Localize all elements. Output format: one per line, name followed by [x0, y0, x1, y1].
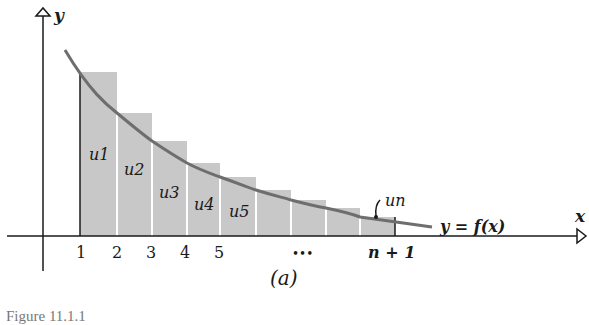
- figure-caption: Figure 11.1.1: [6, 308, 86, 325]
- x-axis-arrow-icon: [577, 229, 586, 243]
- y-axis-label: y: [53, 5, 65, 25]
- un-dot: [374, 215, 378, 219]
- tick-2: 2: [112, 243, 122, 262]
- y-axis-arrow-icon: [36, 8, 50, 16]
- tick-1: 1: [76, 243, 86, 262]
- panel-label: (a): [270, 266, 298, 290]
- bar-6: [256, 190, 291, 236]
- bar-label-u1: u1: [89, 145, 109, 164]
- x-axis-label: x: [574, 206, 586, 226]
- bar-label-u4: u4: [194, 195, 214, 214]
- tick-4: 4: [180, 243, 190, 262]
- bar-label-u5: u5: [229, 202, 249, 221]
- bar-label-un: un: [385, 191, 406, 210]
- tick-n-plus-1: n + 1: [368, 243, 415, 262]
- un-pointer: [376, 200, 380, 216]
- bar-label-u2: u2: [124, 160, 144, 179]
- tick-3: 3: [146, 243, 156, 262]
- tick-5: 5: [214, 243, 224, 262]
- curve-label: y = f(x): [439, 217, 505, 236]
- bar-label-u3: u3: [159, 183, 179, 202]
- tick-ellipsis: •••: [292, 247, 313, 261]
